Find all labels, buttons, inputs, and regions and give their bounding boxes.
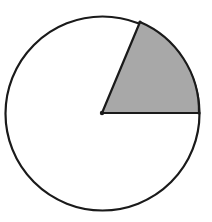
center-point — [100, 111, 104, 115]
circle-sector-diagram — [0, 0, 212, 222]
right-radius-endpoint — [197, 111, 200, 114]
upper-radius-endpoint — [138, 20, 141, 23]
